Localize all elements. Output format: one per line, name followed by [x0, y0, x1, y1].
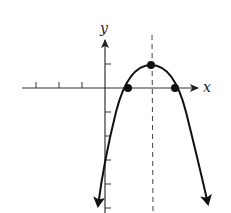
- parabola-graph: x y: [0, 0, 231, 213]
- y-axis-label: y: [99, 20, 109, 36]
- x-intercept-right: [171, 84, 179, 92]
- x-ticks: [36, 82, 82, 88]
- vertex-point: [147, 61, 155, 69]
- x-intercept-left: [124, 84, 132, 92]
- x-axis-label: x: [203, 79, 211, 95]
- parabola-curve-right: [151, 65, 208, 204]
